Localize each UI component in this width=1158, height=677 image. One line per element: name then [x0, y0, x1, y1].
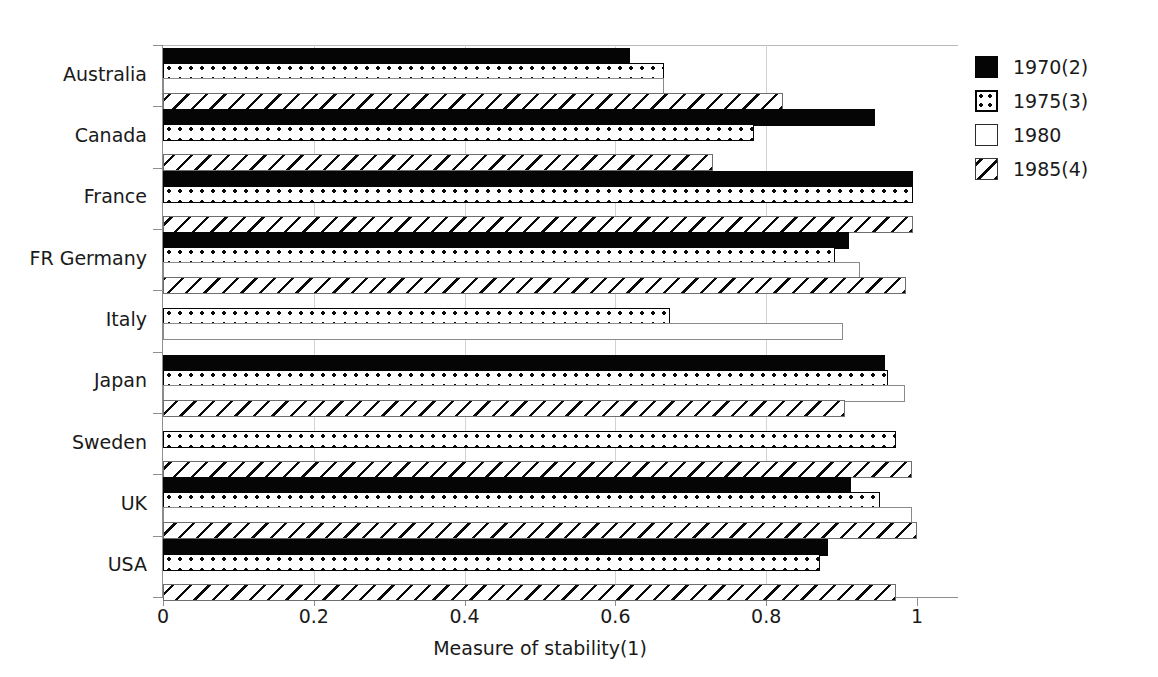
y-axis-category-label: Canada: [0, 124, 147, 146]
y-axis-category-label: Japan: [0, 369, 147, 391]
x-tick-label: 0.8: [751, 605, 781, 627]
legend-swatch-1970-icon: [975, 56, 998, 78]
y-axis-category-label: FR Germany: [0, 247, 147, 269]
bar-france-19854: [163, 216, 913, 233]
x-tick-label: 0.2: [299, 605, 329, 627]
legend-item[interactable]: 1975(3): [975, 84, 1088, 118]
y-tick-mark: [153, 536, 163, 537]
y-tick-mark: [153, 474, 163, 475]
y-tick-mark: [153, 45, 163, 46]
legend-item[interactable]: 1970(2): [975, 50, 1088, 84]
y-axis-category-label: USA: [0, 553, 147, 575]
legend-label: 1970(2): [1013, 56, 1088, 78]
x-tick-label: 0.4: [449, 605, 479, 627]
y-axis-category-label: Sweden: [0, 431, 147, 453]
plot-top-border: [163, 45, 958, 46]
y-tick-mark: [153, 168, 163, 169]
y-tick-mark: [153, 290, 163, 291]
legend-item[interactable]: 1985(4): [975, 152, 1088, 186]
bar-fr-germany-19854: [163, 277, 906, 294]
bar-sweden-19854: [163, 461, 912, 478]
legend-item[interactable]: 1980: [975, 118, 1088, 152]
legend-label: 1985(4): [1013, 158, 1088, 180]
legend-label: 1975(3): [1013, 90, 1088, 112]
bar-usa-19854: [163, 584, 896, 601]
y-axis-category-label: UK: [0, 492, 147, 514]
legend-label: 1980: [1013, 124, 1061, 146]
y-tick-mark: [153, 352, 163, 353]
legend-swatch-1980-icon: [975, 124, 998, 146]
bar-italy-1980: [163, 323, 843, 340]
x-tick-label: 0: [157, 605, 169, 627]
bar-canada-19854: [163, 154, 713, 171]
y-axis-category-label: France: [0, 185, 147, 207]
bar-sweden-19753: [163, 431, 896, 448]
legend-swatch-1975-icon: [975, 90, 998, 112]
bar-france-19753: [163, 186, 913, 203]
y-axis-category-label: Australia: [0, 63, 147, 85]
bar-australia-19854: [163, 93, 783, 110]
x-tick-label: 1: [911, 605, 923, 627]
horizontal-bar-chart: 00.20.40.60.81 AustraliaCanadaFranceFR G…: [0, 0, 1158, 677]
legend-swatch-1985-icon: [975, 158, 998, 180]
chart-legend: 1970(2)1975(3)19801985(4): [975, 50, 1088, 186]
bar-canada-19753: [163, 124, 754, 141]
x-tick-label: 0.6: [600, 605, 630, 627]
y-tick-mark: [153, 229, 163, 230]
y-axis-category-label: Italy: [0, 308, 147, 330]
y-tick-mark: [153, 106, 163, 107]
y-tick-mark: [153, 413, 163, 414]
bar-usa-19753: [163, 554, 820, 571]
bar-uk-19854: [163, 522, 917, 539]
bar-japan-19854: [163, 400, 845, 417]
y-tick-mark: [153, 597, 163, 598]
x-axis-title: Measure of stability(1): [163, 637, 917, 659]
